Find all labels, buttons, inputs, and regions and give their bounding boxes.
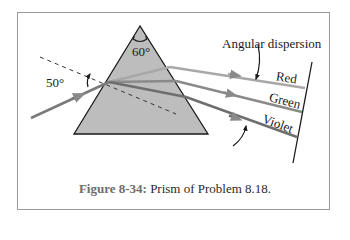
incidence-angle-label: 50° xyxy=(46,76,64,89)
figure-number: Figure 8-34: xyxy=(79,181,147,196)
figure-caption: Figure 8-34: Prism of Problem 8.18. xyxy=(0,182,350,195)
dispersion-arrow-bottom xyxy=(233,126,246,146)
angular-dispersion-label: Angular dispersion xyxy=(222,37,321,50)
apex-angle-label: 60° xyxy=(132,45,150,58)
incidence-angle-arc xyxy=(87,74,90,87)
figure-caption-text: Prism of Problem 8.18. xyxy=(147,181,271,196)
internal-ray-green xyxy=(109,81,176,82)
ray-label-red: Red xyxy=(275,69,298,85)
incident-ray-arrow xyxy=(72,96,80,100)
